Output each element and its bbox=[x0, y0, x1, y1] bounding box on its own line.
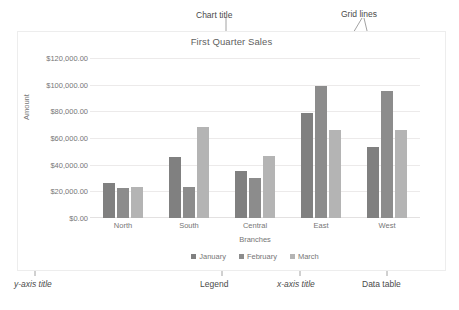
bar-group bbox=[90, 58, 156, 218]
bar bbox=[131, 187, 143, 218]
bar bbox=[235, 171, 247, 218]
chart-title: First Quarter Sales bbox=[17, 36, 446, 47]
legend-swatch-icon bbox=[290, 254, 295, 259]
bar-group bbox=[156, 58, 222, 218]
bar bbox=[381, 91, 393, 218]
y-tick: $120,000.00 bbox=[22, 54, 88, 63]
annotation-x-axis-title: x-axis title bbox=[277, 279, 315, 289]
bar bbox=[183, 187, 195, 218]
bar bbox=[117, 188, 129, 218]
plot-area bbox=[90, 58, 420, 218]
x-tick: South bbox=[156, 221, 222, 230]
y-tick: $0.00 bbox=[22, 214, 88, 223]
bar bbox=[263, 156, 275, 218]
x-tick: East bbox=[288, 221, 354, 230]
bar-groups bbox=[90, 58, 420, 218]
y-tick: $100,000.00 bbox=[22, 80, 88, 89]
x-tick: North bbox=[90, 221, 156, 230]
legend-item[interactable]: January bbox=[191, 252, 226, 261]
legend-item[interactable]: March bbox=[290, 252, 319, 261]
y-axis-tick-labels: $0.00 $20,000.00 $40,000.00 $60,000.00 $… bbox=[18, 58, 88, 218]
x-axis-title-label: Branches bbox=[90, 235, 420, 244]
legend-label: February bbox=[247, 252, 277, 261]
bar bbox=[367, 147, 379, 218]
x-axis-tick-labels: NorthSouthCentralEastWest bbox=[90, 221, 420, 230]
y-tick: $60,000.00 bbox=[22, 134, 88, 143]
y-tick: $40,000.00 bbox=[22, 160, 88, 169]
bar bbox=[249, 178, 261, 218]
legend-label: January bbox=[199, 252, 226, 261]
annotation-y-axis-title-text: y-axis title bbox=[14, 279, 52, 289]
annotation-data-table: Data table bbox=[362, 279, 401, 289]
bar bbox=[197, 127, 209, 218]
legend-swatch-icon bbox=[239, 254, 244, 259]
annotation-legend: Legend bbox=[200, 279, 228, 289]
x-tick: Central bbox=[222, 221, 288, 230]
bar-group bbox=[288, 58, 354, 218]
legend-item[interactable]: February bbox=[239, 252, 277, 261]
bar-group bbox=[354, 58, 420, 218]
bar bbox=[315, 86, 327, 218]
annotation-y-axis-title: y-axis title bbox=[14, 279, 52, 289]
bar bbox=[329, 130, 341, 218]
y-tick: $80,000.00 bbox=[22, 107, 88, 116]
bar bbox=[301, 113, 313, 218]
annotation-x-axis-title-text: x-axis title bbox=[277, 279, 315, 289]
x-tick: West bbox=[354, 221, 420, 230]
annotation-chart-title: Chart title bbox=[196, 10, 232, 20]
annotation-grid-lines: Grid lines bbox=[341, 9, 377, 19]
legend-label: March bbox=[298, 252, 319, 261]
chart-annotation-figure: First Quarter Sales Amount $0.00 $20,000… bbox=[0, 0, 459, 310]
y-tick: $20,000.00 bbox=[22, 187, 88, 196]
bar bbox=[395, 130, 407, 218]
bar-group bbox=[222, 58, 288, 218]
bar bbox=[103, 183, 115, 218]
chart-legend: JanuaryFebruaryMarch bbox=[90, 252, 420, 261]
legend-swatch-icon bbox=[191, 254, 196, 259]
bar bbox=[169, 157, 181, 218]
